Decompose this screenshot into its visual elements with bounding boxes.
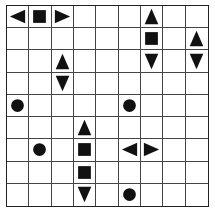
grid-cell[interactable] [52, 6, 74, 28]
triangle-up-icon [76, 119, 93, 136]
grid-cell[interactable] [119, 162, 141, 184]
grid-cell[interactable] [163, 50, 185, 72]
grid-cell[interactable] [119, 139, 141, 161]
grid-cell[interactable] [186, 6, 208, 28]
grid-cell[interactable] [186, 28, 208, 50]
puzzle-board [6, 5, 209, 207]
grid-cell[interactable] [29, 28, 51, 50]
grid-cell[interactable] [163, 117, 185, 139]
circle-icon [121, 97, 138, 114]
circle-icon [31, 141, 48, 158]
grid-cell[interactable] [29, 6, 51, 28]
grid-cell[interactable] [163, 162, 185, 184]
grid-cell[interactable] [141, 6, 163, 28]
grid-cell[interactable] [163, 6, 185, 28]
grid-cell[interactable] [163, 95, 185, 117]
square-icon [76, 141, 93, 158]
grid-cell[interactable] [7, 162, 29, 184]
grid-cell[interactable] [52, 162, 74, 184]
grid-cell[interactable] [52, 50, 74, 72]
grid-cell[interactable] [141, 73, 163, 95]
triangle-up-icon [143, 8, 160, 25]
grid-cell[interactable] [119, 6, 141, 28]
grid-cell[interactable] [186, 139, 208, 161]
grid-cell[interactable] [141, 184, 163, 206]
circle-icon [121, 186, 138, 203]
grid-cell[interactable] [29, 139, 51, 161]
triangle-left-icon [121, 141, 138, 158]
grid-cell[interactable] [29, 73, 51, 95]
grid-cell[interactable] [96, 117, 118, 139]
square-icon [31, 8, 48, 25]
grid-cell[interactable] [74, 95, 96, 117]
grid-cell[interactable] [163, 184, 185, 206]
grid-cell[interactable] [96, 162, 118, 184]
grid-cell[interactable] [74, 28, 96, 50]
grid-cell[interactable] [96, 184, 118, 206]
triangle-down-icon [54, 75, 71, 92]
grid-cell[interactable] [186, 95, 208, 117]
grid-cell[interactable] [119, 50, 141, 72]
grid-cell[interactable] [96, 95, 118, 117]
grid-cell[interactable] [119, 73, 141, 95]
grid-cell[interactable] [186, 50, 208, 72]
grid-cell[interactable] [52, 95, 74, 117]
grid-cell[interactable] [7, 73, 29, 95]
triangle-down-icon [76, 186, 93, 203]
grid-cell[interactable] [7, 6, 29, 28]
grid-cell[interactable] [29, 184, 51, 206]
grid-cell[interactable] [96, 139, 118, 161]
grid-cell[interactable] [29, 117, 51, 139]
grid-cell[interactable] [119, 95, 141, 117]
grid-cell[interactable] [141, 50, 163, 72]
grid-cell[interactable] [74, 162, 96, 184]
grid-cell[interactable] [74, 6, 96, 28]
grid-cell[interactable] [141, 117, 163, 139]
grid-cell[interactable] [96, 6, 118, 28]
grid-cell[interactable] [7, 184, 29, 206]
grid-cell[interactable] [163, 28, 185, 50]
grid-cell[interactable] [52, 139, 74, 161]
grid-cell[interactable] [119, 28, 141, 50]
grid-cell[interactable] [52, 73, 74, 95]
grid-cell[interactable] [74, 139, 96, 161]
grid-cell[interactable] [163, 139, 185, 161]
grid-cell[interactable] [29, 95, 51, 117]
triangle-up-icon [54, 53, 71, 70]
grid-cell[interactable] [74, 184, 96, 206]
grid-cell[interactable] [29, 162, 51, 184]
grid-cell[interactable] [163, 73, 185, 95]
grid-cell[interactable] [186, 73, 208, 95]
grid-cell[interactable] [7, 139, 29, 161]
grid-cell[interactable] [186, 184, 208, 206]
grid-cell[interactable] [141, 95, 163, 117]
grid-cell[interactable] [74, 50, 96, 72]
grid-cell[interactable] [7, 117, 29, 139]
triangle-right-icon [143, 141, 160, 158]
grid-cell[interactable] [52, 117, 74, 139]
triangle-down-icon [188, 53, 205, 70]
grid-cell[interactable] [186, 117, 208, 139]
grid-cell[interactable] [52, 184, 74, 206]
grid-cell[interactable] [7, 95, 29, 117]
grid-cell[interactable] [186, 162, 208, 184]
square-icon [143, 30, 160, 47]
grid-cell[interactable] [74, 73, 96, 95]
grid-cell[interactable] [74, 117, 96, 139]
triangle-down-icon [143, 53, 160, 70]
grid-cell[interactable] [7, 50, 29, 72]
triangle-left-icon [9, 8, 26, 25]
grid-cell[interactable] [119, 117, 141, 139]
grid-cell[interactable] [141, 139, 163, 161]
grid-cell[interactable] [96, 73, 118, 95]
grid-cell[interactable] [119, 184, 141, 206]
circle-icon [9, 97, 26, 114]
grid-cell[interactable] [52, 28, 74, 50]
grid-cell[interactable] [96, 28, 118, 50]
grid-cell[interactable] [29, 50, 51, 72]
grid-cell[interactable] [96, 50, 118, 72]
grid-cell[interactable] [7, 28, 29, 50]
grid-cell[interactable] [141, 162, 163, 184]
grid-cell[interactable] [141, 28, 163, 50]
square-icon [76, 164, 93, 181]
